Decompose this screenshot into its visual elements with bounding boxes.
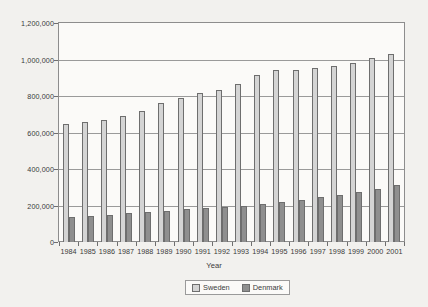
bar-group xyxy=(327,23,346,242)
bar-group xyxy=(289,23,308,242)
x-axis-tick xyxy=(385,242,386,246)
x-axis-label: 1999 xyxy=(348,247,364,256)
y-axis-tick xyxy=(54,60,58,61)
x-axis-tick xyxy=(289,242,290,246)
y-axis-tick xyxy=(54,96,58,97)
x-axis-label: 1989 xyxy=(156,247,172,256)
bar-denmark-1991 xyxy=(203,208,209,242)
y-axis-label: 1,000,000 xyxy=(21,55,54,64)
bar-denmark-2001 xyxy=(394,185,400,242)
bar-denmark-1997 xyxy=(318,197,324,242)
bar-group xyxy=(212,23,231,242)
x-axis-tick xyxy=(347,242,348,246)
legend-swatch-icon xyxy=(192,284,200,292)
bar-group xyxy=(270,23,289,242)
legend-label: Denmark xyxy=(253,283,283,292)
legend-item-denmark: Denmark xyxy=(242,283,283,292)
bar-group xyxy=(117,23,136,242)
y-axis-label: 400,000 xyxy=(27,165,54,174)
y-axis-tick xyxy=(54,206,58,207)
x-axis-title: Year xyxy=(0,261,428,270)
x-axis-tick xyxy=(232,242,233,246)
x-axis-label: 1987 xyxy=(118,247,134,256)
x-axis-tick xyxy=(97,242,98,246)
bar-denmark-1998 xyxy=(337,195,343,242)
x-axis-tick xyxy=(366,242,367,246)
y-axis-tick xyxy=(54,133,58,134)
x-axis-label: 1996 xyxy=(290,247,306,256)
bar-denmark-1992 xyxy=(222,207,228,242)
x-axis-label: 1985 xyxy=(80,247,96,256)
bar-denmark-1989 xyxy=(164,211,170,242)
bar-group xyxy=(97,23,116,242)
x-axis-label: 1991 xyxy=(195,247,211,256)
x-axis-label: 1997 xyxy=(310,247,326,256)
bar-group xyxy=(174,23,193,242)
x-axis-label: 1998 xyxy=(329,247,345,256)
bar-group xyxy=(59,23,78,242)
bar-group xyxy=(232,23,251,242)
x-axis-label: 1988 xyxy=(137,247,153,256)
y-axis-label: 800,000 xyxy=(27,92,54,101)
x-axis-tick xyxy=(270,242,271,246)
bar-denmark-1994 xyxy=(260,204,266,242)
x-axis-label: 1992 xyxy=(214,247,230,256)
bar-group xyxy=(347,23,366,242)
x-axis-tick xyxy=(155,242,156,246)
bar-denmark-1984 xyxy=(69,217,75,242)
x-axis-tick xyxy=(193,242,194,246)
x-axis: 1984198519861987198819891990199119921993… xyxy=(59,247,404,259)
x-axis-label: 1990 xyxy=(175,247,191,256)
bar-denmark-1990 xyxy=(184,209,190,242)
bar-group xyxy=(155,23,174,242)
x-axis-tick xyxy=(136,242,137,246)
bar-denmark-1995 xyxy=(279,202,285,242)
x-axis-label: 1984 xyxy=(60,247,76,256)
x-axis-tick xyxy=(59,242,60,246)
bar-group xyxy=(136,23,155,242)
bar-group xyxy=(78,23,97,242)
y-axis-tick xyxy=(54,169,58,170)
x-axis-label: 2000 xyxy=(367,247,383,256)
x-axis-label: 1995 xyxy=(271,247,287,256)
bar-group xyxy=(193,23,212,242)
bar-denmark-1985 xyxy=(88,216,94,242)
bar-denmark-1987 xyxy=(126,213,132,242)
x-axis-tick xyxy=(404,242,405,246)
bar-group xyxy=(366,23,385,242)
bar-group xyxy=(308,23,327,242)
x-axis-label: 1994 xyxy=(252,247,268,256)
bars-layer xyxy=(59,23,404,242)
bar-group xyxy=(385,23,404,242)
x-axis-tick xyxy=(251,242,252,246)
bar-chart: 0200,000400,000600,000800,0001,000,0001,… xyxy=(0,0,428,307)
x-axis-tick xyxy=(117,242,118,246)
legend-label: Sweden xyxy=(203,283,230,292)
x-axis-tick xyxy=(327,242,328,246)
legend-swatch-icon xyxy=(242,284,250,292)
bar-denmark-1988 xyxy=(145,212,151,242)
x-axis-label: 1993 xyxy=(233,247,249,256)
y-axis-label: 200,000 xyxy=(27,201,54,210)
y-axis-tick xyxy=(54,242,58,243)
bar-denmark-1993 xyxy=(241,206,247,243)
x-axis-tick xyxy=(212,242,213,246)
y-axis-label: 600,000 xyxy=(27,128,54,137)
x-axis-label: 2001 xyxy=(386,247,402,256)
bar-denmark-2000 xyxy=(375,189,381,242)
y-axis-tick xyxy=(54,23,58,24)
x-axis-tick xyxy=(174,242,175,246)
x-axis-tick xyxy=(78,242,79,246)
x-axis-tick xyxy=(308,242,309,246)
x-axis-label: 1986 xyxy=(99,247,115,256)
bar-denmark-1996 xyxy=(299,200,305,242)
chart-legend: SwedenDenmark xyxy=(185,280,290,295)
bar-group xyxy=(251,23,270,242)
bar-denmark-1986 xyxy=(107,215,113,242)
bar-denmark-1999 xyxy=(356,192,362,242)
y-axis-label: 1,200,000 xyxy=(21,19,54,28)
legend-item-sweden: Sweden xyxy=(192,283,230,292)
